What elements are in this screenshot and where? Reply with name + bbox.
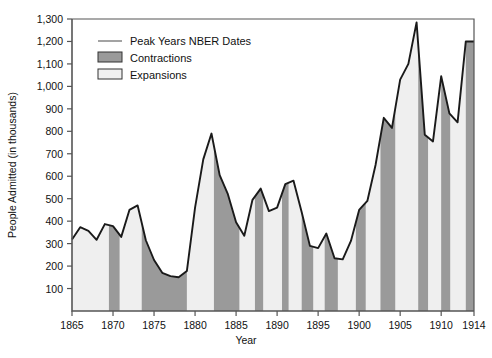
y-tick-label: 1,300 <box>37 13 63 25</box>
chart-canvas: 1002003004005006007008009001,0001,1001,2… <box>0 0 492 358</box>
y-tick-label: 200 <box>45 260 63 272</box>
y-tick-label: 1,200 <box>37 35 63 47</box>
legend-swatch <box>98 52 122 62</box>
y-tick-label: 100 <box>45 283 63 295</box>
x-tick-label: 1885 <box>224 319 248 331</box>
x-tick-label: 1900 <box>347 319 371 331</box>
y-axis-title: People Admitted (in thousands) <box>6 92 18 238</box>
legend-label: Contractions <box>130 52 192 64</box>
y-tick-label: 500 <box>45 193 63 205</box>
y-tick-label: 1,100 <box>37 58 63 70</box>
contraction-band <box>466 19 474 311</box>
x-tick-label: 1905 <box>388 319 412 331</box>
x-tick-label: 1890 <box>265 319 289 331</box>
x-tick-label: 1880 <box>183 319 207 331</box>
x-tick-label: 1870 <box>101 319 125 331</box>
legend-label: Peak Years NBER Dates <box>130 35 252 47</box>
y-tick-label: 600 <box>45 170 63 182</box>
x-axis-title: Year <box>235 334 257 346</box>
legend-swatch <box>98 69 122 79</box>
immigration-chart-figure: 1002003004005006007008009001,0001,1001,2… <box>0 0 492 358</box>
x-tick-label: 1914 <box>462 319 486 331</box>
y-tick-label: 400 <box>45 215 63 227</box>
y-tick-label: 1,000 <box>37 80 63 92</box>
x-tick-label: 1875 <box>142 319 166 331</box>
y-tick-label: 800 <box>45 125 63 137</box>
legend-label: Expansions <box>130 69 187 81</box>
y-tick-label: 700 <box>45 148 63 160</box>
y-tick-label: 300 <box>45 238 63 250</box>
x-tick-label: 1910 <box>430 319 454 331</box>
y-tick-label: 900 <box>45 103 63 115</box>
x-tick-label: 1895 <box>306 319 330 331</box>
x-tick-label: 1865 <box>60 319 84 331</box>
